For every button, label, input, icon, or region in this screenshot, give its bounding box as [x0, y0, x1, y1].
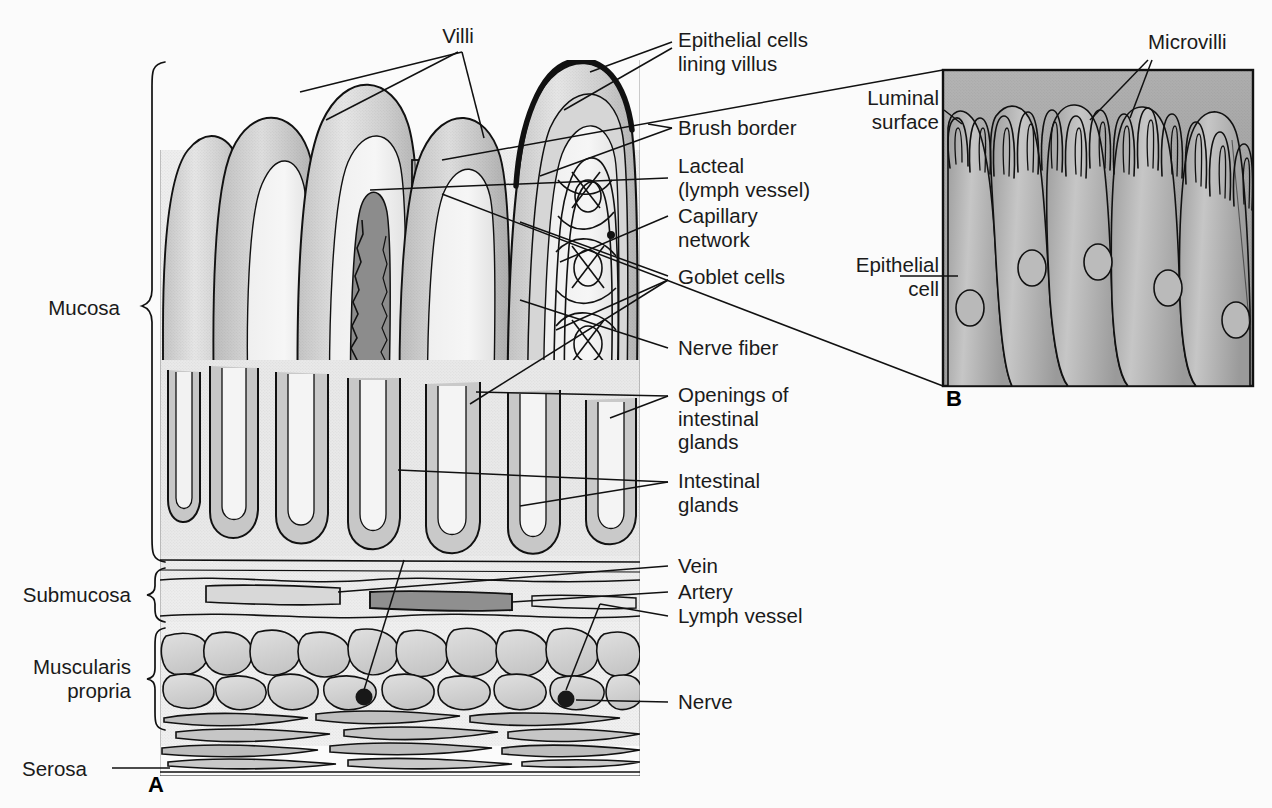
label-goblet-cells: Goblet cells — [678, 265, 785, 289]
label-muscularis-propria: Muscularis propria — [0, 655, 131, 702]
label-capillary-network: Capillary network — [678, 204, 758, 251]
panel-b-identifier: B — [946, 386, 962, 412]
label-microvilli: Microvilli — [1148, 30, 1227, 54]
label-openings-of-intestinal-glands: Openings of intestinal glands — [678, 383, 789, 454]
label-artery: Artery — [678, 580, 733, 604]
label-luminal-surface: Luminal surface — [805, 86, 939, 133]
nucleus — [1222, 302, 1250, 338]
panel-a-identifier: A — [148, 772, 164, 798]
label-epithelial-cells-lining-villus: Epithelial cells lining villus — [678, 28, 808, 75]
nucleus — [956, 290, 984, 326]
nerve-ganglion-dot-left — [356, 689, 373, 706]
label-villi: Villi — [418, 24, 498, 48]
figure-canvas — [0, 0, 1272, 808]
label-lacteal: Lacteal (lymph vessel) — [678, 154, 810, 201]
label-nerve: Nerve — [678, 690, 733, 714]
label-epithelial-cell: Epithelial cell — [805, 253, 939, 300]
nucleus — [1018, 250, 1046, 286]
nucleus — [1084, 244, 1112, 280]
intestinal-glands-group — [160, 360, 640, 560]
label-intestinal-glands: Intestinal glands — [678, 469, 760, 516]
muscularis-propria-group — [160, 622, 642, 769]
label-mucosa: Mucosa — [0, 296, 120, 320]
label-serosa: Serosa — [0, 757, 87, 781]
label-submucosa: Submucosa — [0, 583, 131, 607]
submucosa-band — [160, 556, 640, 622]
vein-vessel — [206, 585, 340, 605]
label-vein: Vein — [678, 554, 718, 578]
label-brush-border: Brush border — [678, 116, 797, 140]
panel-a-illustration — [160, 60, 642, 776]
intestinal-wall-figure: Mucosa Submucosa Muscularis propria Sero… — [0, 0, 1272, 808]
nucleus — [1154, 270, 1182, 306]
label-nerve-fiber: Nerve fiber — [678, 336, 778, 360]
label-lymph-vessel: Lymph vessel — [678, 604, 803, 628]
nerve-ganglion-dot-right — [558, 691, 575, 708]
